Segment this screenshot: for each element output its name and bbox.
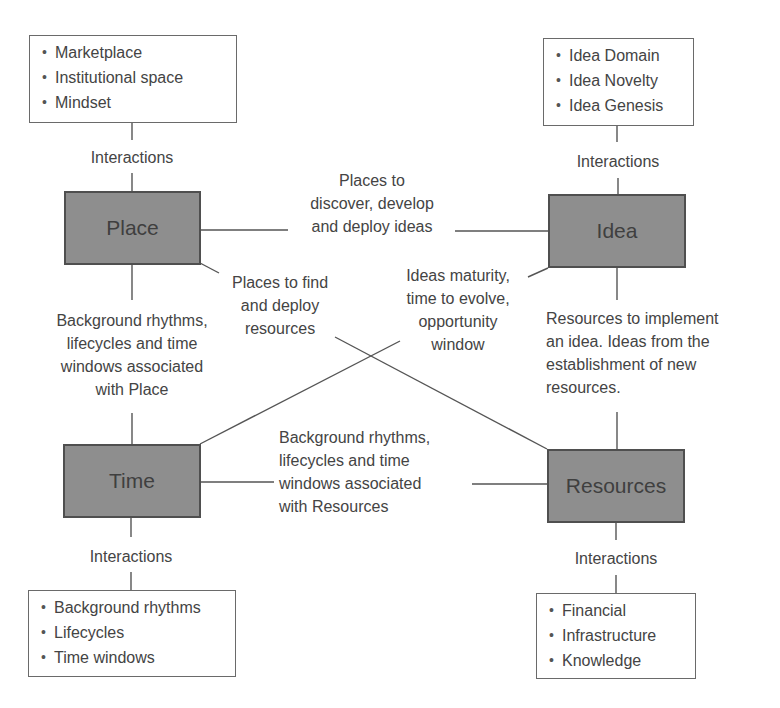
framework-diagram: Marketplace Institutional space Mindset … (0, 0, 780, 708)
place-node-label: Place (106, 216, 159, 240)
edge-label-line: and deploy ideas (288, 215, 456, 238)
edge-label-line: windows associated (34, 355, 230, 378)
edge-label-line: Background rhythms, (34, 309, 230, 332)
resources-interactions-label: Interactions (556, 547, 676, 570)
list-item: Marketplace (42, 40, 228, 65)
list-item: Idea Novelty (556, 68, 685, 93)
edge-label-line: with Resources (279, 495, 469, 518)
list-item: Mindset (42, 90, 228, 115)
edge-label-line: an idea. Ideas from the (546, 330, 766, 353)
edge-label-line: resources. (546, 376, 766, 399)
edge-label-line: and deploy (218, 294, 342, 317)
edge-label-line: resources (218, 317, 342, 340)
edge-label-line: Background rhythms, (279, 426, 469, 449)
place-node: Place (64, 191, 201, 265)
idea-attributes-list: Idea Domain Idea Novelty Idea Genesis (543, 38, 694, 126)
resources-node-label: Resources (566, 474, 666, 498)
resources-node: Resources (547, 449, 685, 523)
idea-interactions-label: Interactions (558, 150, 678, 173)
edge-label-line: lifecycles and time (279, 449, 469, 472)
list-item: Financial (549, 598, 687, 623)
edge-label-idea-resources: Resources to implement an idea. Ideas fr… (546, 307, 766, 399)
edge-label-time-resources: Background rhythms, lifecycles and time … (279, 426, 469, 518)
edge-label-line: window (390, 333, 526, 356)
edge-label-line: lifecycles and time (34, 332, 230, 355)
edge-label-line: opportunity (390, 310, 526, 333)
edge-label-line: Ideas maturity, (390, 264, 526, 287)
edge-label-place-idea: Places to discover, develop and deploy i… (288, 169, 456, 238)
edge-label-line: windows associated (279, 472, 469, 495)
edge-label-place-resources: Places to find and deploy resources (218, 271, 342, 340)
edge-label-idea-time: Ideas maturity, time to evolve, opportun… (390, 264, 526, 356)
idea-node: Idea (548, 194, 686, 268)
edge-label-line: establishment of new (546, 353, 766, 376)
edge-label-line: Places to (288, 169, 456, 192)
resources-attributes-list: Financial Infrastructure Knowledge (536, 593, 696, 679)
edge-label-line: with Place (34, 378, 230, 401)
list-item: Idea Domain (556, 43, 685, 68)
list-item: Knowledge (549, 648, 687, 673)
time-node: Time (63, 444, 201, 518)
edge-label-line: Resources to implement (546, 307, 766, 330)
place-interactions-label: Interactions (72, 146, 192, 169)
list-item: Institutional space (42, 65, 228, 90)
list-item: Time windows (41, 645, 227, 670)
time-attributes-list: Background rhythms Lifecycles Time windo… (28, 590, 236, 677)
edge-label-line: time to evolve, (390, 287, 526, 310)
edge-label-line: discover, develop (288, 192, 456, 215)
list-item: Idea Genesis (556, 93, 685, 118)
list-item: Lifecycles (41, 620, 227, 645)
list-item: Background rhythms (41, 595, 227, 620)
edge-label-line: Places to find (218, 271, 342, 294)
idea-node-label: Idea (597, 219, 638, 243)
list-item: Infrastructure (549, 623, 687, 648)
edge-label-place-time: Background rhythms, lifecycles and time … (34, 309, 230, 401)
time-node-label: Time (109, 469, 155, 493)
time-interactions-label: Interactions (71, 545, 191, 568)
place-attributes-list: Marketplace Institutional space Mindset (29, 35, 237, 123)
